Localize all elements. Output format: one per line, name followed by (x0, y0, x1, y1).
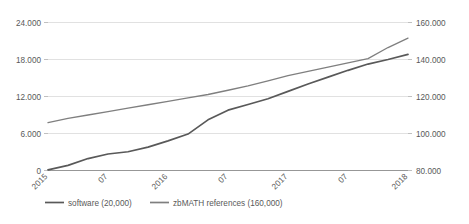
x-axis-tick-label-4: 2017 (270, 172, 290, 192)
x-axis-tick-label-2: 2016 (150, 172, 170, 192)
right-axis-tick-label-3: 100.000 (416, 130, 446, 139)
right-axis-ticks (408, 23, 412, 171)
left-axis-tick-label-2: 12.000 (16, 93, 41, 102)
x-axis-tick-label-5: 07 (337, 172, 350, 185)
right-axis-tick-label-4: 80.000 (416, 167, 441, 176)
chart-legend: software (20,000) zbMATH references (160… (45, 199, 283, 208)
right-axis-tick-labels: 160.000 140.000 120.000 100.000 80.000 (416, 19, 446, 176)
x-axis-tick-label-0: 2015 (30, 172, 50, 192)
x-axis-tick-label-6: 2018 (390, 172, 410, 192)
x-axis-tick-label-1: 07 (97, 172, 110, 185)
legend-label-zbmath-references: zbMATH references (160,000) (173, 199, 283, 208)
gridlines (48, 23, 408, 134)
series-lines (48, 38, 408, 170)
right-axis-tick-label-0: 160.000 (416, 19, 446, 28)
left-axis-tick-labels: 24.000 18.000 12.000 6.000 0 (16, 19, 41, 176)
left-axis-tick-label-0: 24.000 (16, 19, 41, 28)
chart-container: 24.000 18.000 12.000 6.000 0 160.000 140… (0, 0, 469, 224)
line-chart: 24.000 18.000 12.000 6.000 0 160.000 140… (0, 0, 469, 224)
legend-label-software: software (20,000) (68, 199, 132, 208)
right-axis-tick-label-2: 120.000 (416, 93, 446, 102)
x-axis-tick-label-3: 07 (217, 172, 230, 185)
right-axis-tick-label-1: 140.000 (416, 56, 446, 65)
left-axis-ticks (44, 23, 48, 171)
left-axis-tick-label-1: 18.000 (16, 56, 41, 65)
left-axis-tick-label-3: 6.000 (21, 130, 42, 139)
x-axis-tick-labels: 2015 07 2016 07 2017 07 2018 (30, 172, 410, 192)
